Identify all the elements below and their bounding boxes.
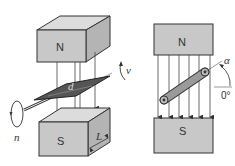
alpha-label: α [224, 54, 230, 66]
right-north-label: N [178, 36, 186, 48]
rotation-arrow-icon [10, 101, 24, 127]
velocity-v-label: v [126, 64, 131, 76]
left-south-label: S [57, 135, 64, 147]
velocity-arrow-icon [119, 61, 125, 80]
magnet-diagram: N S d L n v N S α 0° [0, 0, 235, 166]
right-tilted-rod [160, 68, 209, 104]
length-label: L [95, 130, 102, 142]
right-south-label: S [179, 125, 186, 137]
zero-degree-label: 0° [221, 90, 231, 101]
left-north-magnet [37, 16, 110, 62]
rotation-n-label: n [14, 131, 20, 143]
left-north-label: N [56, 41, 64, 53]
plate-d-label: d [68, 80, 74, 92]
